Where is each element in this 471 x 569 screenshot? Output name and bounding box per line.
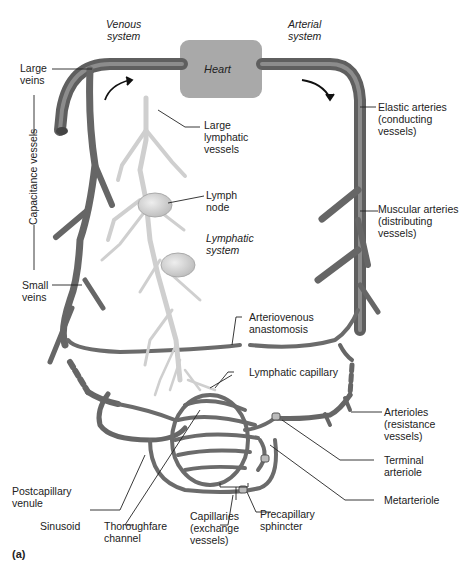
label-sinusoid: Sinusoid [40, 520, 80, 532]
label-capacitance-vessels: Capacitance vessels [27, 129, 39, 225]
label-metarteriole: Metarteriole [384, 494, 439, 506]
label-lymphatic-system: Lymphatic system [206, 232, 254, 256]
label-capillaries: Capillaries (exchange vessels) [190, 510, 239, 546]
arterial-system-header: Arterial system [288, 18, 321, 42]
panel-label: (a) [12, 548, 25, 560]
label-elastic-arteries: Elastic arteries (conducting vessels) [378, 101, 447, 137]
label-av-anastomosis: Arteriovenous anastomosis [249, 311, 314, 335]
heart-label: Heart [204, 63, 231, 75]
label-muscular-arteries: Muscular arteries (distributing vessels) [378, 203, 459, 239]
venous-system-header: Venous system [106, 18, 141, 42]
label-lymphatic-capillary: Lymphatic capillary [249, 366, 338, 378]
label-large-veins: Large veins [20, 62, 47, 86]
label-precapillary-sphincter: Precapillary sphincter [260, 508, 315, 532]
label-lymph-node: Lymph node [206, 189, 237, 213]
label-small-veins: Small veins [22, 279, 48, 303]
label-postcapillary-venule: Postcapillary venule [12, 485, 72, 509]
label-arterioles: Arterioles (resistance vessels) [384, 406, 435, 442]
circulation-diagram [0, 0, 471, 569]
label-thoroughfare-channel: Thoroughfare channel [104, 520, 167, 544]
label-large-lymphatic-vessels: Large lymphatic vessels [204, 119, 248, 155]
lymph-nodes [138, 193, 195, 277]
label-terminal-arteriole: Terminal arteriole [384, 454, 424, 478]
capillary-bed [118, 395, 276, 492]
